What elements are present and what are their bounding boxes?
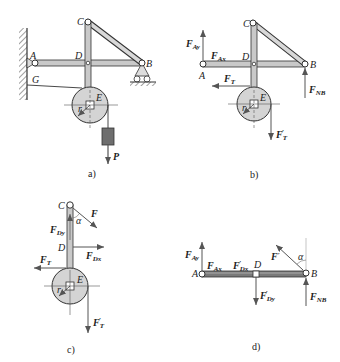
panel-c: C D E r α F FDy FDx FT FT′ c): [34, 200, 105, 356]
point-label-c: C: [243, 18, 250, 29]
statics-diagram: A C D B G E r P a) A C D B E r FAy: [0, 0, 340, 362]
point-label-e: E: [76, 274, 83, 285]
caption-d: d): [252, 341, 260, 353]
weight-block: [102, 128, 114, 145]
force-label-fay: FAy: [185, 38, 201, 51]
caption-c: c): [67, 344, 75, 356]
force-label-fdx-prime: FDx′: [232, 259, 249, 273]
caption-b: b): [250, 169, 258, 181]
point-label-c: C: [58, 200, 65, 211]
angle-alpha-label: α: [76, 215, 82, 226]
force-label-fdy: FDy: [49, 224, 66, 237]
point-label-d: D: [57, 242, 66, 253]
force-label-fnb: FNB: [308, 84, 326, 97]
point-label-c: C: [77, 16, 84, 27]
point-label-d: D: [241, 51, 250, 62]
point-label-g: G: [32, 74, 39, 85]
point-label-b: B: [310, 59, 316, 70]
force-label-ft-prime: FT′: [92, 316, 105, 330]
wall-support: [19, 28, 27, 100]
radius-label: r: [242, 102, 246, 113]
point-label-a: A: [198, 70, 206, 81]
point-label-b: B: [146, 58, 152, 69]
point-label-d: D: [253, 259, 262, 270]
caption-a: a): [88, 168, 96, 180]
force-label-fay: FAy: [184, 249, 200, 262]
panel-b: A C D B E r FAy FAx FT FT′ FNB b): [185, 18, 326, 181]
force-label-ft-prime: FT′: [275, 128, 288, 142]
point-label-a: A: [29, 50, 37, 61]
point-label-e: E: [259, 92, 266, 103]
force-label-f: F: [90, 208, 98, 219]
panel-a: A C D B G E r P a): [19, 16, 156, 180]
point-label-a: A: [191, 268, 199, 279]
angle-alpha-label: α: [298, 251, 304, 262]
force-label-ft: FT: [223, 73, 236, 86]
panel-d: A D B α FAy FAx FDx′ FDy′ F′ FNB d): [184, 238, 327, 353]
load-label-p: P: [113, 151, 120, 162]
point-label-d: D: [74, 50, 83, 61]
radius-label: r: [57, 284, 61, 295]
force-label-f-prime: F′: [270, 251, 280, 262]
rope-g: [27, 85, 82, 88]
force-label-fdx: FDx: [85, 250, 102, 263]
force-label-ft: FT: [39, 254, 52, 267]
force-label-fnb: FNB: [309, 291, 327, 304]
radius-label: r: [78, 103, 82, 114]
point-label-b: B: [311, 268, 317, 279]
point-label-e: E: [95, 92, 102, 103]
force-label-fdy-prime: FDy′: [259, 289, 276, 303]
